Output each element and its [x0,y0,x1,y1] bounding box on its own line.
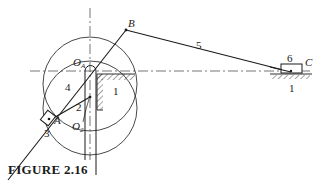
label-C: C [305,56,313,68]
label-2: 2 [76,101,82,113]
label-O2: O2 [72,120,84,134]
ground-hatch [272,75,310,79]
label-1-frame: 1 [113,85,119,97]
joint-A [48,118,51,121]
label-1-ground: 1 [289,82,295,94]
link-5 [126,30,291,72]
label-3: 3 [44,127,50,139]
label-B: B [128,17,135,29]
label-OA: OA [73,56,86,70]
label-6: 6 [287,52,293,64]
joint-B [125,29,128,32]
O2-leader [83,99,89,122]
figure-caption: FIGURE 2.16 [8,162,88,178]
slotted-guide [85,66,96,176]
joint-C [290,70,292,72]
link-4 [8,30,126,180]
frame-hatch-vertical [97,74,103,110]
label-A: A [53,114,61,126]
label-4: 4 [65,81,71,93]
mechanism-diagram: B 5 6 C 1 OA 4 1 2 A 3 O2 [0,0,330,186]
joint-O2 [89,96,92,99]
label-5: 5 [196,39,202,51]
